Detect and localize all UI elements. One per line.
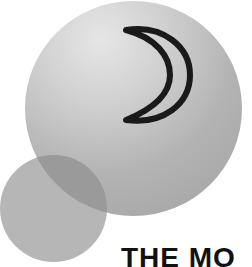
small-sphere xyxy=(0,155,107,262)
brand-name: THE MO xyxy=(121,244,236,267)
logo: THE MO xyxy=(0,0,252,267)
crescent-moon-icon xyxy=(118,22,198,127)
